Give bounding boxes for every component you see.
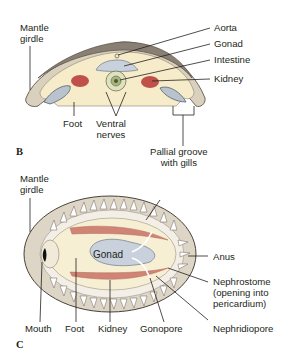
- label-gonad-c: Gonad: [93, 249, 123, 260]
- label-foot-c: Foot: [65, 323, 84, 334]
- kidney-right-shape: [141, 76, 159, 88]
- label-mantle-girdle-b: Mantle girdle: [20, 22, 49, 44]
- label-foot-b: Foot: [63, 118, 82, 129]
- label-mouth: Mouth: [25, 323, 52, 334]
- label-gonad-b: Gonad: [214, 38, 243, 49]
- label-intestine: Intestine: [214, 54, 250, 65]
- label-kidney-c: Kidney: [98, 323, 127, 334]
- label-kidney-b: Kidney: [214, 73, 243, 84]
- label-aorta: Aorta: [214, 22, 237, 33]
- label-gonopore: Gonopore: [140, 323, 183, 334]
- panel-letter-c: C: [16, 339, 24, 350]
- panel-letter-b: B: [16, 146, 23, 157]
- kidney-left-shape: [71, 75, 89, 87]
- label-nephrostome: Nephrostome (opening into pericardium): [213, 276, 271, 309]
- label-mantle-girdle-c: Mantle girdle: [20, 173, 49, 195]
- label-anus: Anus: [213, 251, 235, 262]
- label-ventral-nerves: Ventral nerves: [96, 118, 126, 140]
- label-pallial-groove: Pallial groove with gills: [150, 146, 208, 168]
- label-nephridiopore: Nephridiopore: [213, 323, 273, 334]
